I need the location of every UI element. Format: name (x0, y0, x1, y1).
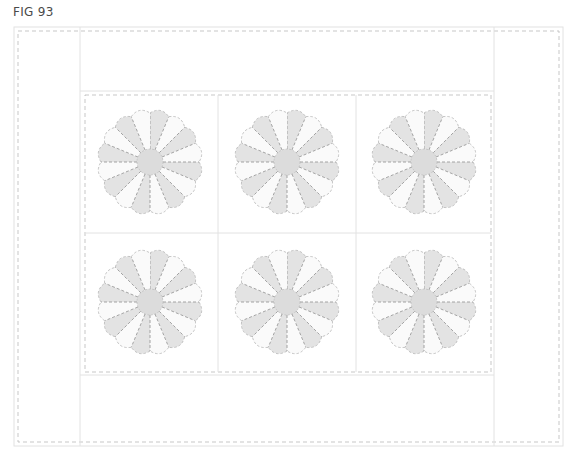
dresden-plate-block (98, 250, 201, 353)
plate-center-circle (411, 289, 437, 315)
dresden-plate-block (98, 110, 201, 213)
plate-center-circle (137, 289, 163, 315)
plate-center-circle (137, 149, 163, 175)
dresden-plate-block (372, 110, 475, 213)
plate-center-circle (411, 149, 437, 175)
dresden-plate-block (235, 250, 338, 353)
dresden-plate-blocks (98, 110, 475, 353)
quilt-diagram (0, 0, 571, 460)
quilt-frames (14, 27, 563, 446)
dresden-plate-block (235, 110, 338, 213)
plate-center-circle (274, 289, 300, 315)
dresden-plate-block (372, 250, 475, 353)
outer-dashed-seam (18, 31, 559, 442)
outer-edge (14, 27, 563, 446)
plate-center-circle (274, 149, 300, 175)
